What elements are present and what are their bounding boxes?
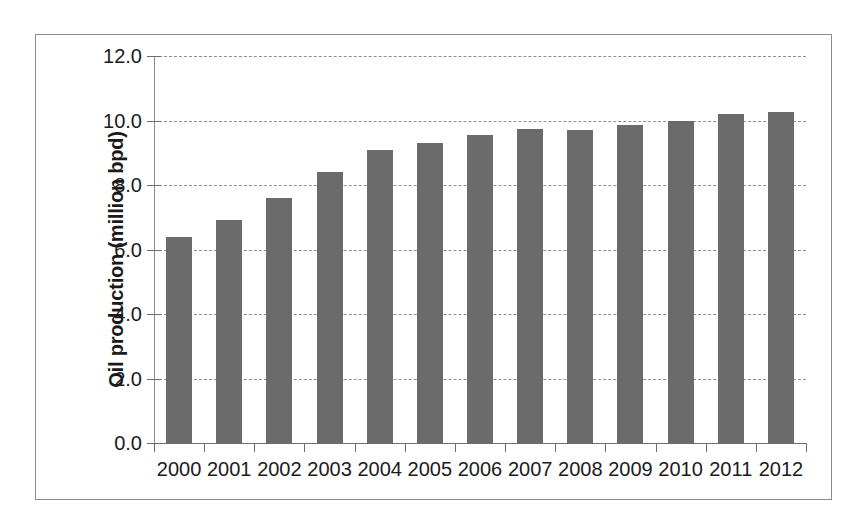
bar (417, 143, 443, 443)
bar (617, 125, 643, 443)
x-axis-tick (806, 443, 807, 452)
y-axis-tick-label: 12.0 (72, 45, 142, 68)
x-axis-tick (605, 443, 606, 452)
y-axis-tick (147, 185, 161, 186)
y-axis-tick-label: 4.0 (72, 303, 142, 326)
y-axis-tick (147, 314, 161, 315)
bar (768, 112, 794, 443)
bar (166, 237, 192, 443)
y-axis-tick (147, 250, 161, 251)
x-axis-tick (706, 443, 707, 452)
x-axis-tick (405, 443, 406, 452)
bar (367, 150, 393, 443)
x-axis-tick-label: 2012 (751, 458, 811, 481)
bar (317, 172, 343, 443)
x-axis-tick-labels: 2000200120022003200420052006200720082009… (154, 458, 806, 488)
x-axis-tick (204, 443, 205, 452)
y-axis-tick (147, 379, 161, 380)
x-axis-tick (254, 443, 255, 452)
x-axis-tick (304, 443, 305, 452)
x-axis-tick (355, 443, 356, 452)
x-axis-tick (555, 443, 556, 452)
bar (266, 198, 292, 443)
bar (216, 220, 242, 443)
y-axis-tick-label: 10.0 (72, 109, 142, 132)
x-axis-ticks (154, 443, 806, 455)
x-axis-tick (656, 443, 657, 452)
x-axis-tick (455, 443, 456, 452)
y-axis-tick-label: 6.0 (72, 238, 142, 261)
plot-area (154, 56, 806, 443)
bar-chart: Oil production (million bpd) 0.02.04.06.… (0, 0, 865, 528)
y-axis-tick-label: 0.0 (72, 432, 142, 455)
x-axis-tick (505, 443, 506, 452)
bar (517, 129, 543, 443)
gridline (154, 56, 806, 57)
x-axis-tick (756, 443, 757, 452)
x-axis-tick (154, 443, 155, 452)
y-axis-tick (147, 121, 161, 122)
bar (467, 135, 493, 443)
y-axis-tick (147, 56, 161, 57)
gridline (154, 121, 806, 122)
y-axis-tick-label: 2.0 (72, 367, 142, 390)
bar (567, 130, 593, 443)
bar (668, 121, 694, 444)
bar (718, 114, 744, 443)
y-axis-tick-label: 8.0 (72, 174, 142, 197)
